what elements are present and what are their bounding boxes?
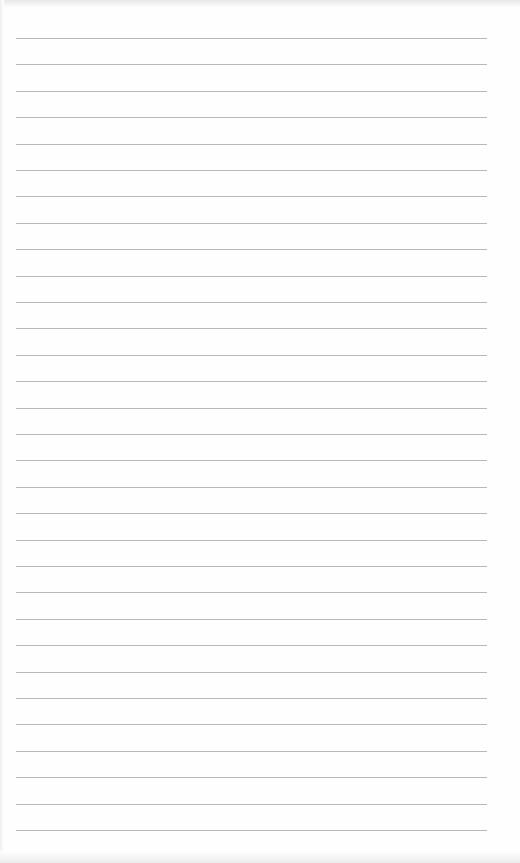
ruled-line	[16, 408, 487, 409]
ruled-line	[16, 223, 487, 224]
ruled-line	[16, 38, 487, 39]
ruled-line	[16, 487, 487, 488]
ruled-line	[16, 777, 487, 778]
ruled-line	[16, 592, 487, 593]
ruled-line	[16, 460, 487, 461]
ruled-line	[16, 64, 487, 65]
ruled-line	[16, 645, 487, 646]
ruled-line	[16, 355, 487, 356]
ruled-line	[16, 91, 487, 92]
ruled-line	[16, 196, 487, 197]
ruled-line	[16, 540, 487, 541]
lined-paper-sheet	[0, 0, 520, 863]
ruled-line	[16, 144, 487, 145]
ruled-line	[16, 698, 487, 699]
ruled-line	[16, 804, 487, 805]
left-edge-shadow	[0, 0, 4, 863]
ruled-line	[16, 619, 487, 620]
ruled-line	[16, 170, 487, 171]
ruled-line	[16, 117, 487, 118]
ruled-line	[16, 328, 487, 329]
ruled-line	[16, 434, 487, 435]
ruled-line	[16, 381, 487, 382]
ruled-line	[16, 672, 487, 673]
ruled-line	[16, 830, 487, 831]
top-edge-shadow	[0, 0, 520, 8]
bottom-edge-shadow	[0, 851, 520, 863]
ruled-line	[16, 276, 487, 277]
ruled-line	[16, 513, 487, 514]
ruled-line	[16, 249, 487, 250]
ruled-line	[16, 724, 487, 725]
ruled-line	[16, 751, 487, 752]
ruled-line	[16, 302, 487, 303]
ruled-line	[16, 566, 487, 567]
